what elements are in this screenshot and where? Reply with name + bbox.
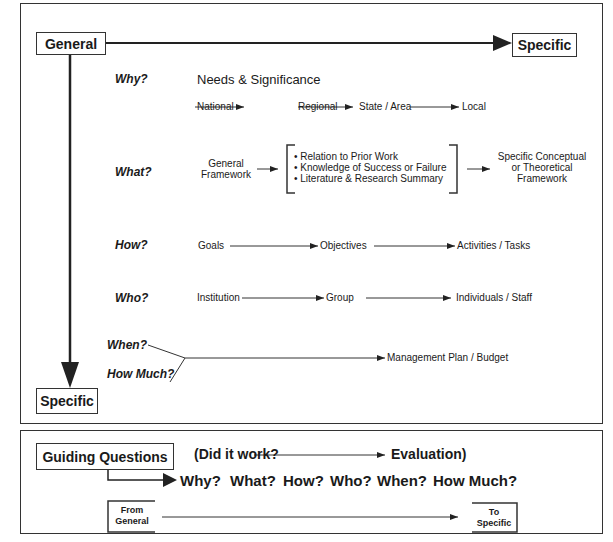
question-what: What? [115, 165, 152, 179]
flow-objectives: Objectives [320, 240, 367, 251]
general-framework-line2: Framework [196, 169, 256, 180]
from-line1: From [110, 505, 154, 516]
did-it-work: (Did it work? [194, 446, 279, 462]
flow-regional: Regional [298, 101, 337, 112]
needs-significance-heading: Needs & Significance [197, 72, 321, 87]
from-line2: General [110, 516, 154, 527]
specific-bottom-label: Specific [40, 393, 94, 409]
question-when: When? [107, 338, 147, 352]
bottom-question-how: How? [283, 472, 324, 489]
to-specific: To Specific [472, 507, 516, 529]
specific-right-box: Specific [512, 33, 577, 57]
specific-right-label: Specific [518, 37, 572, 53]
specific-framework-line2: or Theoretical [491, 162, 593, 173]
bottom-question-who: Who? [330, 472, 372, 489]
from-general: From General [110, 505, 154, 527]
flow-national: National [197, 101, 234, 112]
specific-framework-line3: Framework [491, 173, 593, 184]
question-how-much: How Much? [107, 367, 174, 381]
flow-local: Local [462, 101, 486, 112]
management-plan-budget: Management Plan / Budget [387, 352, 508, 363]
bracket-item-success-failure: • Knowledge of Success or Failure [294, 162, 446, 173]
flow-state-area: State / Area [359, 101, 411, 112]
to-line1: To [472, 507, 516, 518]
question-how: How? [115, 238, 148, 252]
bottom-question-when: When? [377, 472, 427, 489]
bottom-question-how-much: How Much? [433, 472, 517, 489]
guiding-questions-label: Guiding Questions [42, 449, 167, 465]
question-why: Why? [115, 72, 148, 86]
bottom-question-what: What? [230, 472, 276, 489]
bracket-item-prior-work: • Relation to Prior Work [294, 151, 446, 162]
question-who: Who? [115, 291, 148, 305]
bracket-item-literature: • Literature & Research Summary [294, 173, 446, 184]
specific-framework: Specific Conceptual or Theoretical Frame… [491, 151, 593, 184]
evaluation: Evaluation) [391, 446, 466, 462]
bracket-items: • Relation to Prior Work • Knowledge of … [294, 151, 446, 184]
general-box: General [36, 32, 106, 55]
guiding-questions-box: Guiding Questions [36, 443, 174, 470]
specific-framework-line1: Specific Conceptual [491, 151, 593, 162]
flow-individuals-staff: Individuals / Staff [456, 292, 532, 303]
to-line2: Specific [472, 518, 516, 529]
flow-activities-tasks: Activities / Tasks [457, 240, 530, 251]
general-label: General [45, 36, 97, 52]
flow-goals: Goals [198, 240, 224, 251]
general-framework-line1: General [196, 158, 256, 169]
bottom-question-why: Why? [180, 472, 221, 489]
general-framework: General Framework [196, 158, 256, 180]
specific-bottom-box: Specific [36, 388, 98, 414]
flow-institution: Institution [197, 292, 240, 303]
flow-group: Group [326, 292, 354, 303]
